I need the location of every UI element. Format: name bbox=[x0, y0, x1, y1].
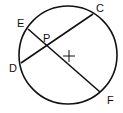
label-D: D bbox=[9, 62, 17, 74]
chord-EF bbox=[28, 29, 100, 92]
label-P: P bbox=[43, 32, 50, 44]
intersecting-chords-diagram: E C D F P bbox=[0, 0, 123, 113]
label-F: F bbox=[107, 94, 114, 106]
label-C: C bbox=[96, 2, 104, 14]
label-E: E bbox=[17, 17, 24, 29]
